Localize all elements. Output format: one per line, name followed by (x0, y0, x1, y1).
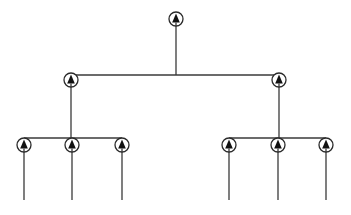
tree-node-mid-right (272, 73, 286, 87)
tree-node-leaf-1 (17, 138, 31, 152)
tree-nodes (17, 12, 333, 152)
tree-node-leaf-6 (319, 138, 333, 152)
tree-node-leaf-5 (271, 138, 285, 152)
tree-node-mid-left (64, 73, 78, 87)
tree-edges (24, 26, 326, 200)
tree-node-leaf-3 (115, 138, 129, 152)
tree-node-leaf-4 (222, 138, 236, 152)
tree-node-leaf-2 (65, 138, 79, 152)
tree-diagram (0, 0, 351, 215)
tree-node-root (169, 12, 183, 26)
